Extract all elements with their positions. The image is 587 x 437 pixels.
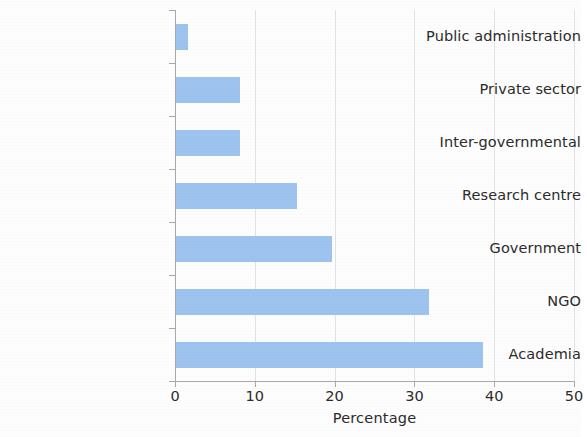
y-axis-tick bbox=[169, 10, 175, 11]
x-axis-tick-label: 40 bbox=[464, 388, 524, 404]
x-axis-tick bbox=[175, 381, 176, 387]
category-label: Government bbox=[413, 240, 581, 256]
category-label: NGO bbox=[413, 293, 581, 309]
gridline bbox=[335, 10, 336, 381]
x-axis-tick-label: 20 bbox=[305, 388, 365, 404]
x-axis-tick bbox=[494, 381, 495, 387]
y-axis-tick bbox=[169, 381, 175, 382]
y-axis-line bbox=[175, 10, 176, 381]
category-label: Private sector bbox=[413, 81, 581, 97]
bar bbox=[175, 183, 297, 209]
x-axis-tick bbox=[255, 381, 256, 387]
x-axis-tick-label: 30 bbox=[384, 388, 444, 404]
x-axis-tick bbox=[574, 381, 575, 387]
y-axis-tick bbox=[169, 63, 175, 64]
category-label: Public administration bbox=[413, 28, 581, 44]
y-axis-tick bbox=[169, 169, 175, 170]
category-label: Inter-governmental bbox=[413, 134, 581, 150]
category-label: Research centre bbox=[413, 187, 581, 203]
y-axis-tick bbox=[169, 275, 175, 276]
bar bbox=[175, 236, 332, 262]
y-axis-tick bbox=[169, 222, 175, 223]
x-axis-title: Percentage bbox=[175, 410, 574, 426]
bar bbox=[175, 24, 188, 50]
x-axis-line bbox=[175, 381, 574, 382]
bar bbox=[175, 77, 240, 103]
bar bbox=[175, 130, 240, 156]
x-axis-tick bbox=[414, 381, 415, 387]
x-axis-tick-label: 0 bbox=[145, 388, 205, 404]
x-axis-tick-label: 10 bbox=[225, 388, 285, 404]
x-axis-tick-label: 50 bbox=[544, 388, 587, 404]
y-axis-tick bbox=[169, 328, 175, 329]
category-label: Academia bbox=[413, 346, 581, 362]
bar bbox=[175, 289, 429, 315]
y-axis-tick bbox=[169, 116, 175, 117]
x-axis-tick bbox=[335, 381, 336, 387]
